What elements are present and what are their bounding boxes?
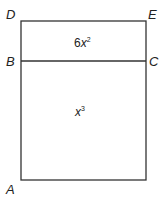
- point-label-c: C: [149, 54, 159, 69]
- point-label-e: E: [148, 7, 157, 22]
- point-label-b: B: [6, 54, 15, 69]
- top-region-area: 6x2: [74, 36, 91, 50]
- bottom-region-area: x3: [74, 105, 85, 119]
- rectangle-diagram: D E B C A 6x2 x3: [0, 0, 161, 200]
- point-label-d: D: [6, 7, 15, 22]
- point-label-a: A: [5, 182, 15, 197]
